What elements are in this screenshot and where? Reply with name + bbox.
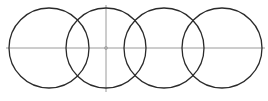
circles-diagram	[0, 0, 268, 101]
